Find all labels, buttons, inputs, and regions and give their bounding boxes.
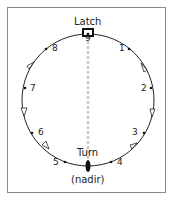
position-4: 4	[117, 158, 123, 167]
position-2: 2	[141, 84, 147, 93]
orbit-diagram	[0, 0, 176, 202]
position-8: 8	[52, 44, 58, 53]
arrow-icon	[21, 108, 27, 116]
turn-icon	[86, 160, 91, 172]
position-5: 5	[53, 158, 59, 167]
position-7: 7	[30, 84, 36, 93]
position-6: 6	[38, 128, 44, 137]
nadir-label: (nadir)	[71, 175, 105, 185]
position-1: 1	[119, 44, 125, 53]
position-9: 9	[85, 34, 91, 43]
arrow-icon	[150, 109, 155, 117]
latch-label: Latch	[74, 17, 101, 27]
turn-label: Turn	[77, 148, 98, 158]
position-3: 3	[132, 128, 138, 137]
